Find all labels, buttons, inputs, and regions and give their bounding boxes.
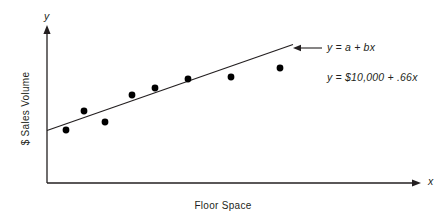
data-point: [81, 108, 88, 115]
data-point: [152, 85, 159, 92]
plot-background: [0, 0, 447, 223]
data-point: [228, 74, 235, 81]
data-point: [185, 76, 192, 83]
data-point: [63, 127, 70, 134]
data-point: [277, 65, 284, 72]
data-point: [102, 119, 109, 126]
scatter-plot-figure: [0, 0, 447, 223]
data-point: [129, 92, 136, 99]
